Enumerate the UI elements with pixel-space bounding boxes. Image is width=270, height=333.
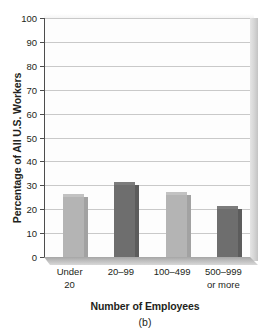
y-axis-tick-mark	[40, 66, 45, 67]
x-axis-category-label: 20–99	[95, 266, 146, 279]
y-axis-tick-mark	[40, 18, 45, 19]
gridline	[45, 114, 250, 115]
bar-face	[217, 209, 238, 257]
bar-face	[114, 185, 135, 257]
plot-3d-right-panel	[249, 18, 258, 261]
y-axis-tick-label: 80	[26, 60, 37, 71]
bar	[114, 185, 135, 257]
bar-top-face	[166, 192, 187, 195]
y-axis-title: Percentage of All U.S. Workers	[11, 33, 23, 263]
y-axis-tick-mark	[40, 138, 45, 139]
bar-chart-figure: Percentage of All U.S. Workers 010203040…	[0, 0, 270, 333]
x-axis-category-label: Under20	[44, 266, 95, 291]
bar-top-face	[217, 206, 238, 209]
plot-area: 0102030405060708090100	[44, 14, 258, 260]
y-axis-tick-label: 90	[26, 36, 37, 47]
y-axis-tick-mark	[40, 42, 45, 43]
gridline	[45, 161, 250, 162]
y-axis-tick-label: 100	[21, 13, 37, 24]
bar-side-face	[84, 197, 88, 257]
x-axis-category-label: 100–499	[147, 266, 198, 279]
bar	[63, 197, 84, 257]
y-axis-tick-label: 60	[26, 108, 37, 119]
y-axis-tick-mark	[40, 114, 45, 115]
bar-side-face	[135, 185, 139, 257]
plot-3d-floor	[44, 257, 258, 265]
bar-face	[63, 197, 84, 257]
bar-top-face	[114, 182, 135, 185]
y-axis-tick-label: 40	[26, 156, 37, 167]
y-axis-tick-label: 0	[32, 252, 37, 263]
bar-face	[166, 195, 187, 257]
gridline	[45, 185, 250, 186]
plot-interior: 0102030405060708090100	[44, 18, 250, 257]
y-axis-tick-mark	[40, 209, 45, 210]
bar-side-face	[187, 195, 191, 257]
y-axis-tick-label: 30	[26, 180, 37, 191]
bar	[166, 195, 187, 257]
y-axis-tick-mark	[40, 185, 45, 186]
figure-caption: (b)	[30, 316, 260, 328]
gridline	[45, 90, 250, 91]
y-axis-tick-label: 50	[26, 132, 37, 143]
x-axis-title: Number of Employees	[30, 300, 260, 312]
y-axis-tick-label: 70	[26, 84, 37, 95]
x-axis-category-label: 500–999or more	[198, 266, 249, 291]
gridline	[45, 18, 250, 19]
bar	[217, 209, 238, 257]
y-axis-tick-label: 20	[26, 204, 37, 215]
y-axis-tick-mark	[40, 90, 45, 91]
gridline	[45, 42, 250, 43]
y-axis-tick-mark	[40, 161, 45, 162]
x-axis-category-labels: Under2020–99100–499500–999or more	[44, 266, 258, 300]
gridline	[45, 66, 250, 67]
bar-side-face	[238, 209, 242, 257]
y-axis-tick-label: 10	[26, 228, 37, 239]
bar-top-face	[63, 194, 84, 197]
gridline	[45, 138, 250, 139]
y-axis-tick-mark	[40, 233, 45, 234]
